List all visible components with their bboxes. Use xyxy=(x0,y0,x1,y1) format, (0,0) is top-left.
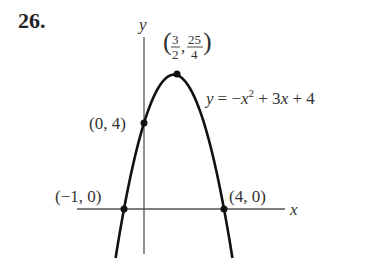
svg-text:(: ( xyxy=(163,27,172,56)
label-4-0: (4, 0) xyxy=(229,187,266,206)
svg-text:,: , xyxy=(181,37,185,56)
label-neg1-0: (−1, 0) xyxy=(55,187,101,206)
label-0-4: (0, 4) xyxy=(89,114,126,133)
svg-text:25: 25 xyxy=(188,32,201,47)
point-neg1-0 xyxy=(121,206,128,213)
svg-text:): ) xyxy=(203,27,212,56)
equation-label: y= −x2 + 3x + 4 xyxy=(204,87,315,108)
point-0-4 xyxy=(141,120,148,127)
parabola-curve xyxy=(116,75,233,258)
svg-text:4: 4 xyxy=(191,47,198,62)
svg-text:3: 3 xyxy=(172,32,179,47)
y-axis-label: y xyxy=(137,15,147,34)
vertex-label: ( 3 2 , 25 4 ) xyxy=(163,27,212,62)
svg-text:2: 2 xyxy=(172,47,179,62)
x-axis-label: x xyxy=(289,200,298,219)
vertex-point xyxy=(174,71,181,78)
point-4-0 xyxy=(221,206,228,213)
parabola-graph: y x (−1, 0) (0, 4) (4, 0) ( 3 2 , 25 4 )… xyxy=(0,0,368,263)
